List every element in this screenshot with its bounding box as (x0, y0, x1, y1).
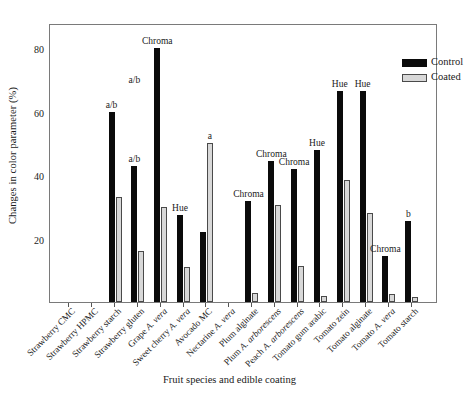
bar-coated (367, 213, 373, 302)
bar-control (131, 166, 137, 302)
bar-annotation: Chroma (233, 189, 264, 199)
bar-control (200, 232, 206, 302)
legend-swatch-control-icon (402, 59, 427, 67)
legend-item-control: Control (402, 56, 468, 69)
bar-coated (138, 251, 144, 302)
legend-label-control: Control (431, 57, 463, 68)
bar-control (268, 161, 274, 302)
y-tick-label: 60 (0, 107, 44, 118)
bar-control (360, 91, 366, 302)
y-tick-label: 40 (0, 171, 44, 182)
bar-annotation: Hue (355, 79, 371, 89)
bar-coated (184, 267, 190, 302)
legend-swatch-coated-icon (402, 74, 427, 82)
bar-control (382, 256, 388, 302)
bar-annotation: Chroma (279, 157, 310, 167)
bar-coated (252, 293, 258, 303)
bar-coated (344, 180, 350, 302)
bar-control (291, 169, 297, 302)
y-tick-label: 80 (0, 44, 44, 55)
bar-control (154, 48, 160, 302)
bar-coated (275, 205, 281, 302)
bar-annotation-extra: a/b (129, 75, 141, 85)
bar-annotation: Chroma (370, 244, 401, 254)
bar-annotation: Hue (309, 138, 325, 148)
bar-annotation: b (406, 209, 411, 219)
bar-annotation: Hue (172, 203, 188, 213)
chart-legend: Control Coated (402, 56, 468, 86)
bar-control (109, 112, 115, 302)
bar-coated (298, 266, 304, 302)
bar-coated (412, 297, 418, 302)
bar-control (405, 221, 411, 302)
bar-control (177, 215, 183, 302)
bar-annotation: a/b (129, 154, 141, 164)
bar-coated (389, 294, 395, 302)
bar-coated (321, 296, 327, 302)
bar-annotation: a/b (106, 100, 118, 110)
y-tick-label: 20 (0, 234, 44, 245)
x-axis-title: Fruit species and edible coating (0, 374, 459, 385)
bar-control (245, 201, 251, 302)
bar-coated (207, 143, 213, 302)
legend-item-coated: Coated (402, 71, 468, 84)
legend-label-coated: Coated (431, 72, 461, 83)
bar-annotation: a (208, 131, 212, 141)
bar-annotation: Hue (332, 79, 348, 89)
bar-annotation: Chroma (142, 36, 173, 46)
plot-area: a/ba/bChromaHueaChromaChromaChromaHueHue… (49, 24, 437, 303)
bar-control (314, 150, 320, 302)
bar-coated (161, 207, 167, 302)
bar-control (337, 91, 343, 302)
y-axis-title: Changes in color parameter (%) (7, 26, 18, 286)
bar-coated (116, 197, 122, 302)
